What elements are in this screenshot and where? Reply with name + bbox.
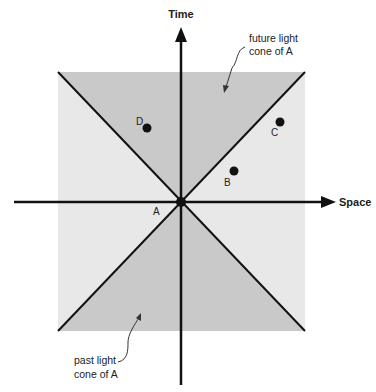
event-a-label: A xyxy=(153,206,160,217)
future-cone-label-line1: future light xyxy=(249,32,298,44)
future-cone-label-line2: cone of A xyxy=(249,45,293,57)
event-d-dot xyxy=(143,124,152,133)
past-cone-label-line2: cone of A xyxy=(74,368,118,380)
event-a-dot xyxy=(176,197,186,207)
event-c-label: C xyxy=(271,127,278,138)
event-d-label: D xyxy=(136,116,143,127)
space-axis-label: Space xyxy=(339,196,371,208)
time-axis-label: Time xyxy=(168,8,193,20)
past-cone-label-line1: past light xyxy=(74,354,116,366)
event-b-label: B xyxy=(224,177,231,188)
event-c-dot xyxy=(276,118,285,127)
time-axis-arrow-icon xyxy=(175,27,187,42)
space-axis-arrow-icon xyxy=(321,196,336,208)
light-cone-diagram: Time Space future light cone of A past l… xyxy=(0,0,376,392)
event-b-dot xyxy=(230,167,239,176)
